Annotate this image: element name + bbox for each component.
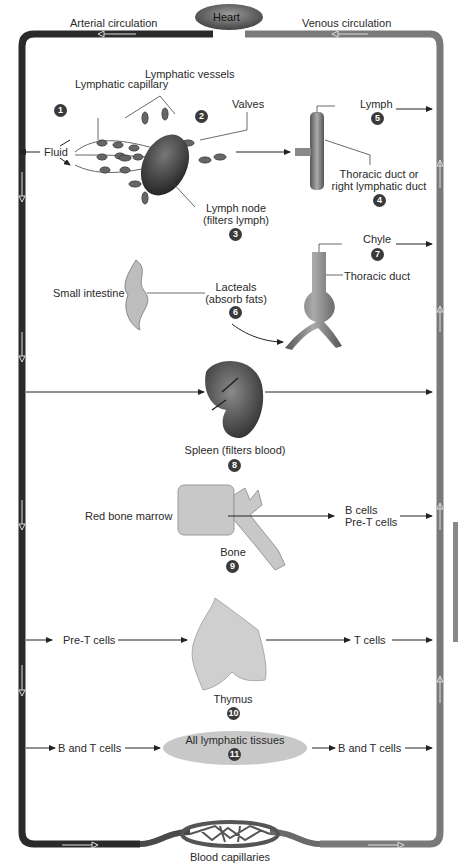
valves-label: Valves <box>232 98 264 110</box>
bone-label: Bone <box>213 546 253 558</box>
t-cells-label: T cells <box>354 634 386 646</box>
spleen <box>205 361 263 438</box>
heart-label: Heart <box>213 11 240 23</box>
step-badge-10: 10 <box>227 707 240 720</box>
red-bone-marrow-label: Red bone marrow <box>85 510 172 522</box>
lymph-label: Lymph <box>360 98 393 110</box>
filters-lymph-label: (filters lymph) <box>196 214 276 226</box>
step-badge-7: 7 <box>371 248 384 261</box>
lymph-node-label: Lymph node <box>196 202 276 214</box>
absorb-fats-label: (absorb fats) <box>204 293 268 305</box>
b-and-t-cells-output-label: B and T cells <box>338 742 401 754</box>
arterial-circulation-label: Arterial circulation <box>70 17 157 29</box>
small-intestine <box>125 260 148 330</box>
thoracic-duct-or-label: Thoracic duct or <box>328 168 430 180</box>
page-edge-tab <box>453 522 458 642</box>
thoracic-duct-lower <box>285 252 342 350</box>
right-lymphatic-duct-label: right lymphatic duct <box>328 180 430 192</box>
venous-circulation-label: Venous circulation <box>302 17 391 29</box>
step-badge-9: 9 <box>226 560 239 573</box>
venous-loop-right <box>245 34 440 844</box>
step-badge-2: 2 <box>195 110 208 123</box>
lymphatic-vessels-label: Lymphatic vessels <box>145 68 195 80</box>
blood-capillaries-label: Blood capillaries <box>175 851 285 863</box>
lymphatic-capillary-label: Lymphatic capillary <box>75 78 125 90</box>
chyle-label: Chyle <box>363 233 391 245</box>
step-badge-1: 1 <box>54 104 67 117</box>
thymus-label: Thymus <box>210 693 256 705</box>
step-badge-8: 8 <box>228 459 241 472</box>
step-badge-3: 3 <box>229 228 242 241</box>
spleen-label: Spleen (filters blood) <box>175 444 295 456</box>
pre-t-cells-output-label: Pre-T cells <box>345 516 397 528</box>
lymph-node <box>132 127 199 204</box>
step-badge-4: 4 <box>373 194 386 207</box>
small-intestine-label: Small intestine <box>53 287 125 299</box>
step-badge-6: 6 <box>229 306 242 319</box>
thoracic-duct-label: Thoracic duct <box>344 270 410 282</box>
step-badge-11: 11 <box>228 748 241 761</box>
thymus <box>192 598 266 690</box>
step-badge-5: 5 <box>371 112 384 125</box>
lacteals-label: Lacteals <box>204 281 268 293</box>
fluid-label: Fluid <box>44 146 68 158</box>
b-and-t-cells-input-label: B and T cells <box>58 742 121 754</box>
b-cells-label: B cells <box>345 504 377 516</box>
thoracic-duct-upper <box>310 112 324 190</box>
pre-t-cells-input-label: Pre-T cells <box>63 634 115 646</box>
all-lymphatic-tissues-label: All lymphatic tissues <box>173 734 297 746</box>
